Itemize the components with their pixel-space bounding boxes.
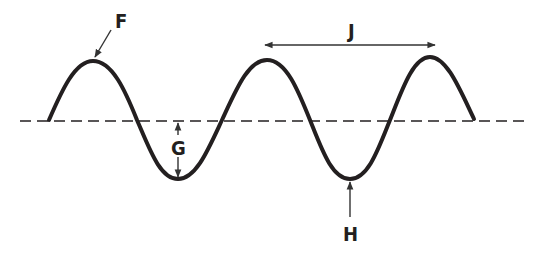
label-j-wavelength: J [347, 19, 355, 43]
label-f-crest: F [115, 9, 127, 33]
wave-diagram: F G H J [0, 0, 536, 255]
crest-pointer-arrow [95, 30, 111, 57]
wave-curve [49, 57, 474, 179]
label-g-amplitude: G [171, 136, 186, 160]
label-h-trough: H [343, 222, 358, 246]
